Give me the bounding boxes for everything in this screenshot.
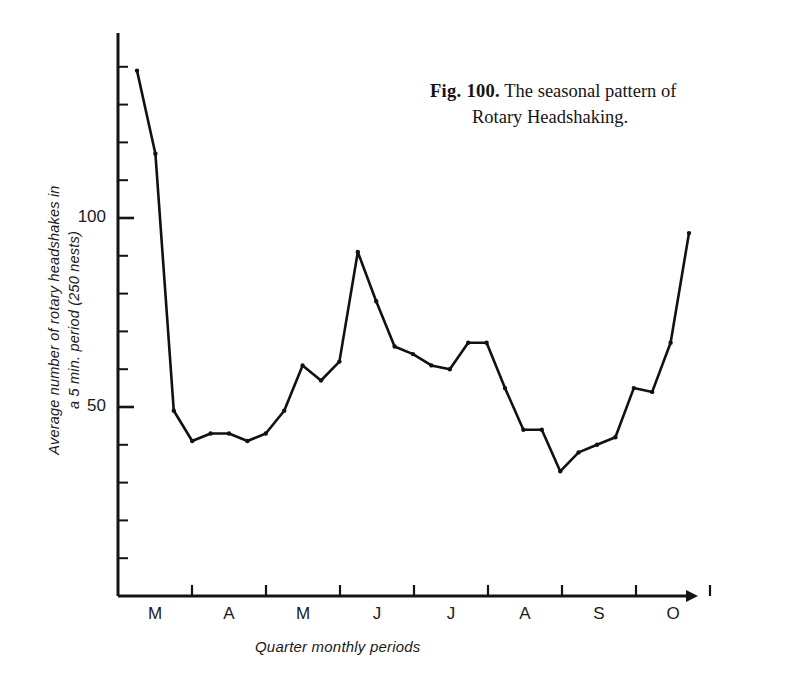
data-point bbox=[650, 390, 654, 394]
data-point bbox=[264, 431, 268, 435]
data-point bbox=[227, 431, 231, 435]
x-tick-label-j-3: J bbox=[362, 604, 392, 624]
data-point bbox=[613, 435, 617, 439]
data-point bbox=[411, 352, 415, 356]
data-point bbox=[300, 363, 304, 367]
data-point bbox=[374, 299, 378, 303]
data-point bbox=[521, 428, 525, 432]
data-line-rotary-headshakes bbox=[137, 71, 689, 472]
data-point bbox=[668, 341, 672, 345]
data-point bbox=[337, 359, 341, 363]
data-point bbox=[484, 341, 488, 345]
data-point bbox=[172, 409, 176, 413]
data-point bbox=[448, 367, 452, 371]
data-point bbox=[190, 439, 194, 443]
x-tick-label-a-1: A bbox=[214, 604, 244, 624]
data-point bbox=[208, 431, 212, 435]
data-point bbox=[429, 363, 433, 367]
data-point bbox=[135, 68, 139, 72]
data-point bbox=[356, 250, 360, 254]
chart-plot-area bbox=[0, 0, 789, 681]
data-point-markers bbox=[135, 68, 691, 473]
axis-lines bbox=[118, 33, 698, 602]
data-point bbox=[245, 439, 249, 443]
x-tick-label-j-4: J bbox=[436, 604, 466, 624]
data-point bbox=[503, 386, 507, 390]
data-point bbox=[282, 409, 286, 413]
data-point bbox=[576, 450, 580, 454]
x-tick-label-s-6: S bbox=[584, 604, 614, 624]
data-point bbox=[595, 443, 599, 447]
x-tick-label-m-2: M bbox=[288, 604, 318, 624]
y-tick-label: 50 bbox=[66, 396, 106, 416]
y-axis-ticks bbox=[118, 67, 134, 558]
x-tick-label-m-0: M bbox=[140, 604, 170, 624]
data-point bbox=[319, 378, 323, 382]
x-axis-arrowhead bbox=[686, 590, 698, 602]
data-point bbox=[466, 341, 470, 345]
figure-root: Fig. 100. The seasonal pattern of Rotary… bbox=[0, 0, 789, 681]
data-point bbox=[392, 344, 396, 348]
data-point bbox=[632, 386, 636, 390]
data-point bbox=[540, 428, 544, 432]
x-tick-label-a-5: A bbox=[510, 604, 540, 624]
x-axis-ticks bbox=[192, 585, 710, 596]
y-tick-label: 100 bbox=[66, 207, 106, 227]
x-tick-label-o-7: O bbox=[658, 604, 688, 624]
data-point bbox=[687, 231, 691, 235]
data-point bbox=[558, 469, 562, 473]
data-point bbox=[153, 152, 157, 156]
